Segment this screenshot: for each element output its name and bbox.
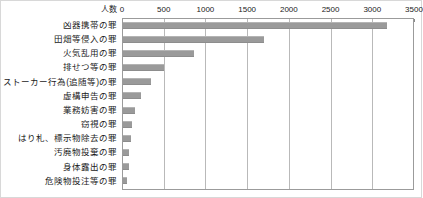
category-label: 排せつ等の罪 xyxy=(63,60,117,74)
bar xyxy=(123,135,131,142)
x-tick-label: 500 xyxy=(157,5,170,15)
bar xyxy=(123,107,135,114)
x-tick-label: 1000 xyxy=(197,5,215,15)
bar-rows: 凶器携帯の罪田畑等侵入の罪火気乱用の罪排せつ等の罪ストーカー行為(追随等)の罪虚… xyxy=(1,18,423,190)
bar xyxy=(123,78,151,85)
bar-row: 火気乱用の罪 xyxy=(1,46,423,60)
bar xyxy=(123,121,132,128)
bar xyxy=(123,22,387,29)
x-tick-label: 2000 xyxy=(280,5,298,15)
bar-row: 汚廃物投棄の罪 xyxy=(1,145,423,159)
bar-row: 身体露出の罪 xyxy=(1,160,423,174)
x-tick-label: 0 xyxy=(120,5,124,15)
bar-row: ストーカー行為(追随等)の罪 xyxy=(1,75,423,89)
category-label: 汚廃物投棄の罪 xyxy=(54,145,117,159)
bar xyxy=(123,149,129,156)
bar xyxy=(123,177,127,184)
category-label: 虚構申告の罪 xyxy=(63,89,117,103)
bar xyxy=(123,50,194,57)
bar xyxy=(123,36,264,43)
category-label: 窃視の罪 xyxy=(81,117,117,131)
bar-row: 虚構申告の罪 xyxy=(1,89,423,103)
bar-row: 凶器携帯の罪 xyxy=(1,18,423,32)
x-tick-label: 3500 xyxy=(405,5,423,15)
category-label: 火気乱用の罪 xyxy=(63,46,117,60)
x-tick-label: 2500 xyxy=(322,5,340,15)
bar-row: 危険物投注等の罪 xyxy=(1,174,423,188)
category-label: はり札、標示物除去の罪 xyxy=(18,131,117,145)
x-tick-label: 3000 xyxy=(363,5,381,15)
x-axis-tick-labels: 0500100015002000250030003500 xyxy=(1,5,423,15)
category-label: 凶器携帯の罪 xyxy=(63,18,117,32)
category-label: 業務妨害の罪 xyxy=(63,103,117,117)
bar-row: 田畑等侵入の罪 xyxy=(1,32,423,46)
category-label: 田畑等侵入の罪 xyxy=(54,32,117,46)
category-label: ストーカー行為(追随等)の罪 xyxy=(3,75,117,89)
bar xyxy=(123,64,164,71)
category-label: 危険物投注等の罪 xyxy=(45,174,117,188)
bar xyxy=(123,92,141,99)
bar xyxy=(123,163,129,170)
bar-row: はり札、標示物除去の罪 xyxy=(1,131,423,145)
category-label: 身体露出の罪 xyxy=(63,160,117,174)
bar-row: 排せつ等の罪 xyxy=(1,60,423,74)
x-tick-label: 1500 xyxy=(238,5,256,15)
bar-row: 窃視の罪 xyxy=(1,117,423,131)
bar-row: 業務妨害の罪 xyxy=(1,103,423,117)
